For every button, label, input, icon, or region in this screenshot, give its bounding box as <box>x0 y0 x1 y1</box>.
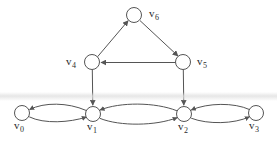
node-v5 <box>176 55 191 70</box>
edge-v4-v1 <box>92 70 93 106</box>
node-label-v1: v1 <box>87 121 97 135</box>
node-label-v1-subscript: 1 <box>93 126 98 135</box>
edge-v6-v5 <box>140 21 178 56</box>
edge-v3-v2 <box>191 104 249 110</box>
node-label-v5: v5 <box>197 56 207 70</box>
node-label-v2: v2 <box>178 121 188 135</box>
edge-v4-v6 <box>98 21 129 57</box>
edge-v1-v2 <box>100 118 177 125</box>
node-label-v2-subscript: 2 <box>184 126 189 135</box>
node-v4 <box>85 55 100 70</box>
node-label-v6: v6 <box>149 8 159 22</box>
node-label-v3-subscript: 3 <box>255 125 260 134</box>
graph-figure: v0 v1 v2 v3 v4 v5 v6 <box>0 0 277 146</box>
node-label-v0-base: v <box>14 119 20 131</box>
node-label-v5-subscript: 5 <box>203 61 208 70</box>
edge-v2-v1 <box>100 104 177 111</box>
node-label-v4-subscript: 4 <box>72 61 77 70</box>
edge-v1-v0 <box>30 104 86 110</box>
node-v6 <box>127 8 142 23</box>
node-label-v4-base: v <box>66 55 72 67</box>
node-label-v5-base: v <box>197 55 203 67</box>
edge-v5-v2 <box>183 70 184 106</box>
node-label-v2-base: v <box>178 120 184 132</box>
node-label-v3: v3 <box>249 120 259 134</box>
node-label-v6-base: v <box>149 7 155 19</box>
node-label-v0: v0 <box>14 120 24 134</box>
node-label-v6-subscript: 6 <box>155 13 160 22</box>
node-label-v1-base: v <box>87 120 93 132</box>
graph-canvas <box>0 0 277 146</box>
node-label-v4: v4 <box>66 56 76 70</box>
node-label-v0-subscript: 0 <box>20 125 25 134</box>
edge-v2-v3 <box>191 117 249 123</box>
edge-v0-v1 <box>29 117 86 122</box>
node-label-v3-base: v <box>249 119 255 131</box>
